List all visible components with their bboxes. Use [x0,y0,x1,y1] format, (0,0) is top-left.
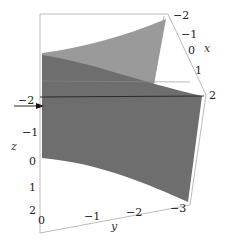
y-tick-2: −2 [126,206,142,219]
y-axis-label: y [110,220,118,233]
front-surface [42,55,202,202]
x-axis-label: x [204,42,211,55]
y-tick-3: −3 [170,202,186,215]
y-tick-0: 0 [38,214,45,227]
x-tick-0: −2 [173,9,189,22]
x-tick-1: −1 [181,28,197,41]
surface-plot-3d: −2 −1 0 1 2 x −2 −1 0 1 2 z 0 −1 −2 −3 y [0,0,228,244]
x-tick-2: 0 [188,44,195,57]
z-tick-2: 0 [29,155,36,168]
y-tick-1: −1 [84,210,100,223]
z-axis-ticks: −2 −1 0 1 2 z [10,94,38,217]
z-tick-4: 2 [29,204,36,217]
y-axis-ticks: 0 −1 −2 −3 y [38,202,186,233]
x-axis-ticks: −2 −1 0 1 2 x [173,9,216,102]
z-axis-label: z [10,140,17,153]
x-tick-3: 1 [195,64,202,77]
x-tick-4: 2 [209,89,216,102]
z-tick-0: −2 [18,94,34,107]
z-tick-1: −1 [22,126,38,139]
z-tick-3: 1 [29,181,36,194]
